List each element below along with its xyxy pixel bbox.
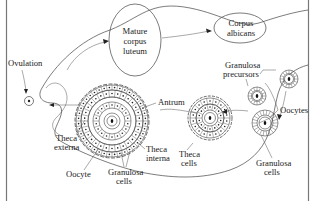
secondary-granulosa-inner-cell-wall <box>217 121 222 124</box>
pointer-oocytes-2 <box>265 83 278 110</box>
theca-interna-ring-cell-nucleus <box>78 118 80 120</box>
secondary-granulosa-inner-cell-wall <box>207 104 208 110</box>
primary-oocyte-nucleus <box>264 121 267 125</box>
precursor-ring-1-cell-wall <box>286 84 287 87</box>
theca-interna-ring-cell-nucleus <box>140 138 142 140</box>
secondary-granulosa-outer-cell-nucleus <box>226 120 228 122</box>
granulosa-outer-ring-cell-wall <box>102 144 104 151</box>
label-oocytes: Oocytes <box>280 105 309 115</box>
secondary-granulosa-inner-cell-nucleus <box>198 115 200 117</box>
ovary-outline <box>42 6 308 88</box>
cumulus-ring-cell-wall <box>103 105 106 110</box>
theca-interna-ring-cell-nucleus <box>144 128 146 130</box>
cumulus-ring-cell-nucleus <box>125 112 127 114</box>
theca-interna-ring-cell-nucleus <box>83 138 85 140</box>
primary-granulosa-cell-wall <box>260 111 262 116</box>
theca-interna-ring-cell-wall <box>122 87 124 92</box>
granulosa-outer-ring-cell-nucleus <box>100 145 102 147</box>
precursor-ring-1-cell-wall <box>286 71 287 74</box>
theca-interna-ring-cell-wall <box>106 85 107 90</box>
label-corpus-albicans-2: albicans <box>227 28 256 38</box>
granulosa-outer-ring-cell-nucleus <box>139 117 141 119</box>
pointer-theca-externa <box>76 120 85 135</box>
secondary-granulosa-outer-cell-wall <box>217 101 220 106</box>
theca-interna-ring-cell-wall <box>134 96 138 100</box>
secondary-granulosa-inner-cell-wall <box>217 112 222 115</box>
secondary-granulosa-outer-cell-wall <box>200 101 203 106</box>
theca-interna-ring-cell-nucleus <box>119 88 121 90</box>
granulosa-outer-ring-cell-nucleus <box>84 123 86 125</box>
theca-interna-ring-cell-nucleus <box>94 149 96 151</box>
secondary-granulosa-outer-cell-wall <box>207 132 208 138</box>
granulosa-outer-ring-cell-wall <box>124 94 128 100</box>
theca-interna-ring-cell-nucleus <box>124 151 126 153</box>
secondary-granulosa-outer-cell-wall <box>195 127 200 131</box>
label-theca-interna-2: interna <box>146 153 170 163</box>
cumulus-ring-cell-nucleus <box>97 112 99 114</box>
theca-interna-ring-cell-wall <box>83 139 87 142</box>
granulosa-outer-ring-cell-nucleus <box>85 112 87 114</box>
label-luteum: luteum <box>123 46 147 56</box>
theca-interna-ring-cell-nucleus <box>86 98 88 100</box>
secondary-granulosa-outer-cell-nucleus <box>198 130 200 132</box>
secondary-granulosa-inner-cell-nucleus <box>220 120 222 122</box>
precursor-ring-2-cell-wall <box>262 98 265 99</box>
cumulus-ring-cell-nucleus <box>95 123 97 125</box>
granulosa-outer-ring-cell-nucleus <box>132 139 134 141</box>
secondary-granulosa-outer-cell-wall <box>212 98 213 104</box>
granulosa-outer-ring-cell-wall <box>109 90 110 97</box>
arrow-to-luteum <box>67 42 105 70</box>
theca-interna-ring-cell-nucleus <box>124 89 126 91</box>
theca-interna-ring-cell-wall <box>122 150 124 155</box>
theca-interna-ring-cell-wall <box>137 100 141 103</box>
theca-interna-ring-cell-nucleus <box>89 146 91 148</box>
arrow-primary-to-secondary <box>226 110 248 111</box>
theca-interna-ring-cell-wall <box>106 152 107 157</box>
label-oocyte: Oocyte <box>66 169 91 179</box>
granulosa-outer-ring-cell-nucleus <box>139 123 141 125</box>
label-ovulation: Ovulation <box>8 58 43 68</box>
label-theca-cells-2: cells <box>181 158 197 168</box>
theca-interna-ring-cell-wall <box>80 105 84 107</box>
granulosa-outer-ring-cell-nucleus <box>84 117 86 119</box>
secondary-granulosa-inner-cell-nucleus <box>209 128 211 130</box>
secondary-granulosa-outer-cell-nucleus <box>192 114 194 116</box>
label-granulosa-cells-right-2: cells <box>264 167 280 177</box>
secondary-granulosa-outer-cell-nucleus <box>203 133 205 135</box>
precursor-ring-1-cell-wall <box>291 84 292 87</box>
granulosa-outer-ring-cell-nucleus <box>127 98 129 100</box>
follicle-diagram: Mature corpus luteum Corpus albicans Ovu… <box>0 0 315 201</box>
theca-interna-ring-cell-nucleus <box>140 103 142 105</box>
theca-interna-ring-cell-nucleus <box>94 92 96 94</box>
granulosa-outer-ring-cell-nucleus <box>117 93 119 95</box>
granulosa-outer-ring-cell-wall <box>131 135 137 139</box>
cumulus-ring-cell-wall <box>114 102 115 108</box>
secondary-granulosa-inner-cell-nucleus <box>204 107 206 109</box>
cumulus-ring-cell-wall <box>124 125 130 127</box>
precursor-ring-1-cell-wall <box>281 76 284 77</box>
primary-granulosa-cell-wall <box>270 129 273 133</box>
precursor-ring-1-cell-wall <box>283 73 285 75</box>
theca-interna-ring-cell-wall <box>78 110 83 112</box>
precursor-ring-1-cell-wall <box>294 81 297 82</box>
arrowhead <box>24 89 28 94</box>
cumulus-ring-cell-wall <box>103 132 106 137</box>
secondary-granulosa-inner-cell-wall <box>212 104 213 110</box>
granulosa-outer-ring-cell-wall <box>87 135 93 139</box>
granulosa-outer-ring-cell-wall <box>84 108 90 111</box>
theca-interna-ring-cell-nucleus <box>145 118 147 120</box>
precursor-ring-2-cell-wall <box>262 93 265 94</box>
precursor-ring-2-cell-wall <box>254 101 255 104</box>
theca-interna-ring-cell-nucleus <box>80 133 82 135</box>
theca-interna-ring-cell-wall <box>126 149 128 153</box>
theca-interna-ring-cell-nucleus <box>145 123 147 125</box>
pointer-oocyte <box>84 148 99 170</box>
cumulus-ring-cell-wall <box>109 102 110 108</box>
granulosa-outer-ring-cell-nucleus <box>127 142 129 144</box>
secondary-granulosa-inner-cell-wall <box>197 112 202 115</box>
cumulus-ring-cell-nucleus <box>95 117 97 119</box>
precursor-ring-2-cell-wall <box>251 100 253 102</box>
theca-interna-ring-cell-wall <box>143 126 148 127</box>
secondary-granulosa-outer-cell-nucleus <box>220 130 222 132</box>
granulosa-outer-ring-cell-nucleus <box>137 112 139 114</box>
